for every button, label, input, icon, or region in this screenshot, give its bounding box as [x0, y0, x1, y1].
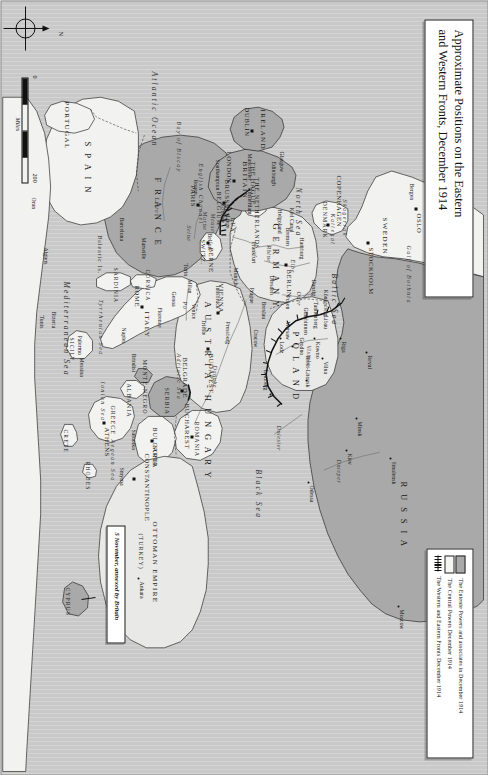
map-page: R U S S I A P O L A N D G E R M A N Y A …	[0, 0, 488, 775]
rotated-map-canvas: R U S S I A P O L A N D G E R M A N Y A …	[0, 0, 488, 775]
historical-map: R U S S I A P O L A N D G E R M A N Y A …	[0, 0, 488, 775]
callout-cyprus-annexation: 5 November, annexed by Britain	[106, 525, 125, 643]
callout-leader-line	[0, 1, 487, 775]
compass-north-label: N	[57, 31, 64, 36]
callout-text: 5 November, annexed by Britain	[111, 532, 120, 636]
